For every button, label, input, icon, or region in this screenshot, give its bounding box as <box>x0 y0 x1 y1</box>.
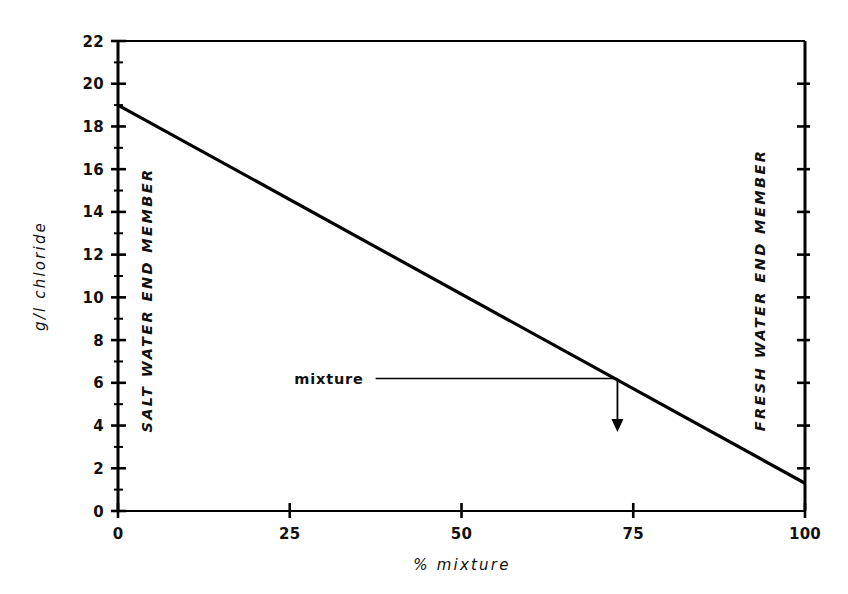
y-tick-label: 10 <box>83 289 104 307</box>
x-tick-label: 100 <box>789 525 821 543</box>
x-tick-label: 0 <box>113 525 124 543</box>
y-tick-label: 18 <box>83 118 104 136</box>
x-tick-label: 75 <box>623 525 644 543</box>
mixture-label: mixture <box>294 371 363 387</box>
y-tick-label: 8 <box>93 332 104 350</box>
y-tick-label: 0 <box>93 503 104 521</box>
y-tick-label: 14 <box>83 203 104 221</box>
y-tick-label: 22 <box>83 33 104 51</box>
x-tick-label: 50 <box>451 525 472 543</box>
chart-svg: 0246810121416182022 0255075100 mixture g… <box>0 0 848 594</box>
x-tick-label: 25 <box>279 525 300 543</box>
chart-figure: 0246810121416182022 0255075100 mixture g… <box>0 0 848 594</box>
y-tick-label: 6 <box>93 374 104 392</box>
figure-background <box>0 0 848 594</box>
x-axis-title: % mixture <box>413 556 510 574</box>
y-axis-title: g/l chloride <box>31 221 49 331</box>
y-tick-label: 2 <box>93 460 104 478</box>
y-tick-label: 12 <box>83 246 104 264</box>
y-tick-label: 4 <box>93 417 104 435</box>
y-tick-label: 20 <box>83 75 104 93</box>
fresh-water-end-member-label: FRESH WATER END MEMBER <box>752 149 768 432</box>
salt-water-end-member-label: SALT WATER END MEMBER <box>139 167 155 432</box>
y-tick-label: 16 <box>83 161 104 179</box>
